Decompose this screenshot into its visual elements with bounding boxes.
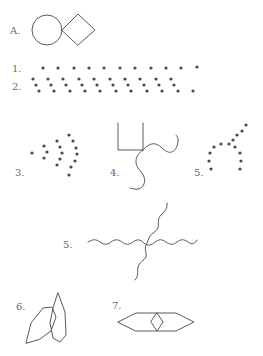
- wavy-tail-right: [143, 135, 178, 152]
- figure-label-1: 1.: [12, 63, 22, 74]
- hexagon-left: [26, 307, 56, 343]
- figure-2: 2.: [12, 77, 195, 92]
- wavy-line-vertical: [135, 203, 167, 280]
- figure-label-a: A.: [9, 25, 20, 36]
- figure-label-5: 5.: [194, 167, 204, 178]
- dot-triplets: [31, 77, 194, 92]
- circle-shape: [32, 15, 62, 45]
- hexagon-outer: [118, 313, 194, 331]
- diamond-shape: [62, 14, 95, 45]
- wavy-tail-down: [130, 150, 145, 189]
- figure-label-6: 5.: [63, 239, 73, 250]
- figure-4: 4.: [110, 123, 178, 189]
- figure-1: 1.: [12, 63, 199, 74]
- figure-label-4: 4.: [110, 167, 120, 178]
- diamond-inner: [151, 313, 163, 331]
- dot-row: [41, 65, 198, 69]
- figure-label-7: 6.: [16, 301, 26, 312]
- wavy-line-horizontal: [88, 240, 197, 245]
- open-rectangle: [118, 123, 143, 150]
- hexagon-right: [50, 293, 66, 342]
- dot-arch: [207, 123, 247, 170]
- figure-6: 5.: [63, 203, 197, 280]
- dot-arrowhead: [30, 133, 78, 176]
- figure-3: 3.: [15, 133, 79, 178]
- figure-7: 6.: [16, 293, 66, 343]
- figure-label-8: 7.: [112, 300, 122, 311]
- figure-label-2: 2.: [12, 81, 22, 92]
- figure-label-3: 3.: [15, 167, 25, 178]
- figure-8: 7.: [112, 300, 194, 331]
- figure-a: A.: [9, 14, 95, 45]
- figure-sheet: A. 1. 2.: [0, 0, 263, 356]
- figure-5: 5.: [194, 123, 248, 178]
